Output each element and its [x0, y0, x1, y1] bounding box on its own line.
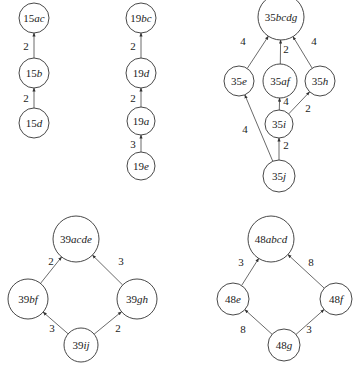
edge-weight-label: 2	[305, 102, 311, 114]
diagram-d35-nodes: 35bcdg35e35af35h35i35j	[224, 0, 335, 192]
node-label: 39gh	[126, 293, 149, 305]
arrow-icon	[288, 255, 324, 289]
node-label: 35j	[272, 170, 286, 182]
node-19a: 19a	[127, 107, 155, 135]
node-39gh: 39gh	[117, 279, 157, 319]
arrow-icon	[245, 310, 272, 335]
node-label: 48g	[276, 339, 293, 351]
diagram-d48-nodes: 48abcd48e48f48g	[217, 216, 352, 361]
node-label: 35af	[270, 75, 292, 87]
node-label: 35bcdg	[265, 11, 298, 23]
edge-weight-label: 4	[242, 123, 248, 135]
node-label: 39acde	[60, 233, 92, 245]
edge-weight-label: 3	[118, 255, 124, 267]
node-label: 39ij	[72, 339, 89, 351]
node-35af: 35af	[263, 64, 297, 98]
node-39ij: 39ij	[64, 328, 98, 362]
node-35h: 35h	[305, 66, 335, 96]
node-19bc: 19bc	[126, 3, 156, 33]
diagram-d15-nodes: 15ac15b15d	[19, 3, 49, 138]
node-label: 19e	[133, 160, 149, 172]
edge-weight-label: 3	[130, 138, 136, 150]
edge-weight-label: 2	[115, 322, 121, 334]
node-19d: 19d	[126, 58, 156, 88]
node-35e: 35e	[224, 66, 254, 96]
edge-weight-label: 3	[306, 323, 312, 335]
arrow-icon	[247, 36, 268, 68]
edge-48e-to-48abcd	[242, 258, 259, 285]
edge-weight-label: 2	[130, 92, 136, 104]
node-35bcdg: 35bcdg	[258, 0, 304, 40]
edge-weight-label: 8	[240, 323, 246, 335]
edge-weight-label: 2	[23, 40, 29, 52]
edge-weight-label: 4	[240, 35, 246, 47]
node-35j: 35j	[263, 160, 295, 192]
arrow-icon	[242, 258, 259, 285]
node-label: 15b	[26, 67, 43, 79]
diagram-d39-nodes: 39acde39bf39gh39ij	[8, 216, 157, 362]
node-48f: 48f	[320, 283, 352, 315]
edge-weight-label: 4	[283, 95, 289, 107]
edge-35h-to-35bcdg	[293, 37, 312, 69]
node-label: 15d	[26, 117, 43, 129]
node-label: 48e	[225, 293, 241, 305]
node-label: 35h	[312, 75, 329, 87]
node-39acde: 39acde	[53, 216, 99, 262]
edge-weight-label: 3	[49, 322, 55, 334]
edge-weight-label: 2	[283, 43, 289, 55]
node-label: 39bf	[18, 293, 40, 305]
edge-weight-label: 2	[130, 40, 136, 52]
edge-39ij-to-39bf	[43, 312, 68, 334]
edge-35e-to-35bcdg	[247, 36, 268, 68]
node-48e: 48e	[217, 283, 249, 315]
node-48g: 48g	[268, 329, 300, 361]
nodes-layer: 15ac15b15d19bc19d19a19e35bcdg35e35af35h3…	[8, 0, 352, 362]
diagram-canvas: 15ac15b15d19bc19d19a19e35bcdg35e35af35h3…	[0, 0, 353, 377]
node-label: 19d	[133, 67, 150, 79]
edge-48g-to-48e	[245, 310, 272, 335]
edge-weight-label: 2	[23, 92, 29, 104]
node-15d: 15d	[19, 108, 49, 138]
edge-48f-to-48abcd	[288, 255, 324, 289]
edge-weight-label: 8	[308, 256, 314, 268]
node-39bf: 39bf	[8, 279, 48, 319]
edge-weight-label: 2	[283, 139, 289, 151]
node-label: 35e	[231, 75, 247, 87]
node-19e: 19e	[127, 152, 155, 180]
node-15b: 15b	[19, 58, 49, 88]
node-48abcd: 48abcd	[248, 216, 294, 262]
node-15ac: 15ac	[19, 3, 49, 33]
arrow-icon	[293, 37, 312, 69]
edge-weight-label: 2	[48, 255, 54, 267]
edge-weight-label: 3	[238, 256, 244, 268]
arrow-icon	[43, 312, 68, 334]
diagram-d35-edges	[245, 36, 312, 161]
node-label: 19a	[133, 115, 150, 127]
node-label: 19bc	[130, 12, 152, 24]
node-35i: 35i	[265, 110, 293, 138]
node-label: 48abcd	[255, 233, 288, 245]
node-label: 35i	[272, 118, 286, 130]
node-label: 15ac	[23, 12, 45, 24]
edge-weight-label: 4	[311, 35, 317, 47]
node-label: 48f	[329, 293, 345, 305]
